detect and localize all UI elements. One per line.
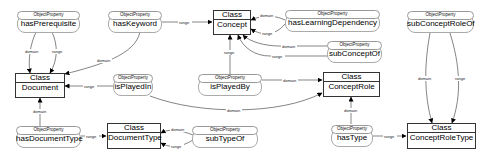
class-concept-role-type[interactable]: Class ConceptRoleType <box>407 123 476 149</box>
property-name: hasLearningDependency <box>285 18 380 27</box>
property-name: hasPrerequisite <box>17 19 80 28</box>
object-property-is-played-in[interactable]: ObjectProperty isPlayedIn <box>113 74 153 96</box>
class-name: ConceptRole <box>324 82 379 91</box>
class-concept[interactable]: Class Concept <box>213 10 251 35</box>
property-name: subTypeOf <box>192 134 258 143</box>
property-name: hasType <box>331 133 373 142</box>
edge-label-range: range <box>179 20 190 25</box>
class-header: Class <box>408 124 475 133</box>
edge-label-domain: domain <box>227 108 240 113</box>
edge-label-range: range <box>224 50 235 55</box>
class-document-type[interactable]: Class DocumentType <box>107 123 161 149</box>
edge-label-domain: domain <box>97 58 110 63</box>
edge-label-domain: domain <box>171 127 184 132</box>
class-name: Document <box>16 83 64 92</box>
class-header: Class <box>108 124 160 133</box>
edge-label-domain: domain <box>282 44 295 49</box>
edge-label-range: range <box>84 84 95 89</box>
edge-label-domain: domain <box>25 49 38 54</box>
edge-label-range: range <box>171 144 182 149</box>
edge-label-range: range <box>455 76 466 81</box>
object-property-has-document-type[interactable]: ObjectProperty hasDocumentType <box>16 126 81 148</box>
property-name: isPlayedIn <box>113 82 153 91</box>
edge-label-range: range <box>384 134 395 139</box>
edge-label-domain: domain <box>283 78 296 83</box>
object-property-sub-concept-role-of[interactable]: ObjectProperty subConceptRoleOf <box>407 11 474 33</box>
edge-label-range: range <box>52 49 63 54</box>
class-header: Class <box>214 11 250 20</box>
class-name: ConceptRoleType <box>408 133 475 142</box>
property-name: subConceptRoleOf <box>407 19 474 28</box>
object-property-sub-concept-of[interactable]: ObjectProperty subConceptOf <box>327 41 382 63</box>
property-name: subConceptOf <box>327 49 382 58</box>
edge-haskeyword-domain <box>65 32 140 74</box>
class-header: Class <box>324 73 379 82</box>
property-name: isPlayedBy <box>198 82 262 91</box>
edge-label-domain: domain <box>33 109 46 114</box>
edge-label-domain: domain <box>344 108 357 113</box>
class-concept-role[interactable]: Class ConceptRole <box>323 72 380 97</box>
class-header: Class <box>16 74 64 83</box>
object-property-has-prerequisite[interactable]: ObjectProperty hasPrerequisite <box>17 11 80 33</box>
property-name: hasKeyword <box>108 19 162 28</box>
object-property-has-type[interactable]: ObjectProperty hasType <box>331 125 373 147</box>
class-name: DocumentType <box>108 133 160 142</box>
object-property-is-played-by[interactable]: ObjectProperty isPlayedBy <box>198 74 262 96</box>
object-property-has-keyword[interactable]: ObjectProperty hasKeyword <box>108 11 162 33</box>
edge-label-range: range <box>262 31 273 36</box>
property-name: hasDocumentType <box>16 134 81 143</box>
edge-label-domain: domain <box>260 13 273 18</box>
class-name: Concept <box>214 20 250 29</box>
class-document[interactable]: Class Document <box>15 73 65 98</box>
edge-label-range: range <box>86 134 97 139</box>
edge-label-domain: domain <box>418 76 431 81</box>
object-property-sub-type-of[interactable]: ObjectProperty subTypeOf <box>192 126 258 148</box>
object-property-has-learning-dependency[interactable]: ObjectProperty hasLearningDependency <box>285 10 380 32</box>
edge-label-range: range <box>272 54 283 59</box>
